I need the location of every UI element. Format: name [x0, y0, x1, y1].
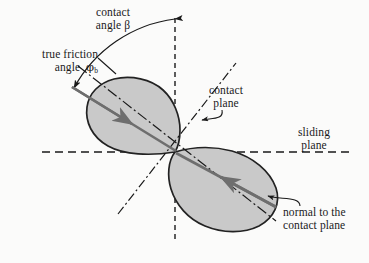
- label-true-friction-angle-line1: true friction: [2, 48, 98, 61]
- label-sliding-plane: sliding plane: [286, 126, 342, 151]
- label-contact-angle: contact angle β: [78, 6, 148, 31]
- upper-left-block: [87, 77, 180, 154]
- contact-plane-leader: [202, 110, 222, 120]
- lower-right-block: [169, 148, 278, 232]
- label-true-friction-angle-line2: angle φb: [2, 61, 98, 77]
- label-contact-angle-line2: angle β: [78, 19, 148, 32]
- phi-subscript: b: [94, 65, 98, 74]
- label-normal-to-contact-plane-line2: contact plane: [283, 219, 365, 232]
- figure-canvas: contact angle β true friction angle φb c…: [0, 0, 369, 263]
- label-contact-angle-line1: contact: [78, 6, 148, 19]
- true-friction-angle-tick: [98, 58, 116, 74]
- label-true-friction-angle-word: angle: [55, 61, 80, 73]
- label-true-friction-angle: true friction angle φb: [2, 48, 98, 77]
- label-sliding-plane-line2: plane: [286, 139, 342, 152]
- label-contact-plane-line1: contact: [196, 84, 256, 97]
- label-normal-to-contact-plane: normal to the contact plane: [283, 206, 365, 231]
- label-sliding-plane-line1: sliding: [286, 126, 342, 139]
- label-contact-plane-line2: plane: [196, 97, 256, 110]
- label-contact-plane: contact plane: [196, 84, 256, 109]
- label-normal-to-contact-plane-line1: normal to the: [283, 206, 365, 219]
